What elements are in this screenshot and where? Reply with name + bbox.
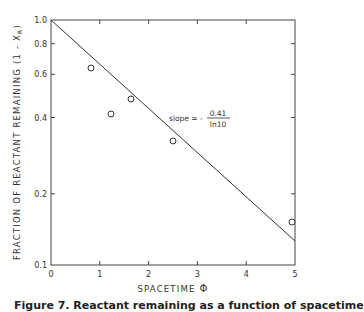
y-tick-label: 0.2 — [34, 190, 47, 199]
y-tick-label: 0.1 — [34, 261, 47, 270]
data-points — [88, 65, 295, 225]
svg-text:slope = -: slope = - — [169, 114, 203, 123]
data-point — [170, 138, 176, 144]
data-point — [108, 111, 114, 117]
data-point — [128, 96, 134, 102]
slope-annotation: slope = - 0.41 ln10 — [169, 109, 230, 129]
x-tick-label: 5 — [292, 270, 297, 279]
x-tick-label: 1 — [97, 270, 102, 279]
y-tick-label: 1.0 — [34, 16, 47, 25]
svg-text:ln10: ln10 — [210, 120, 227, 129]
x-tick-label: 3 — [195, 270, 200, 279]
y-tick-label: 0.4 — [34, 114, 47, 123]
x-tick-label: 0 — [48, 270, 53, 279]
y-axis-title: FRACTION OF REACTANT REMAINING (1 - XR) — [12, 24, 23, 260]
y-tick-label: 0.8 — [34, 40, 47, 49]
data-point — [88, 65, 94, 71]
x-tick-label: 2 — [146, 270, 151, 279]
data-point — [289, 219, 295, 225]
x-axis-title: SPACETIME Φ — [137, 283, 208, 294]
x-tick-label: 4 — [244, 270, 249, 279]
figure-caption: Figure 7. Reactant remaining as a functi… — [14, 299, 364, 312]
y-tick-label: 0.6 — [34, 70, 47, 79]
svg-text:0.41: 0.41 — [210, 109, 227, 118]
fit-line — [51, 20, 295, 241]
